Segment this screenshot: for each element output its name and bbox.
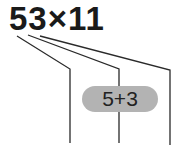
- sum-pill: 5+3: [82, 86, 158, 112]
- connector-lines: [0, 0, 179, 156]
- line-left: [17, 36, 70, 143]
